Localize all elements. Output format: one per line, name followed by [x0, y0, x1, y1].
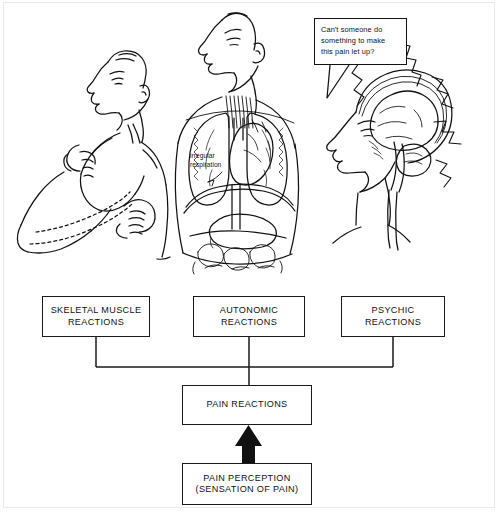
- node-autonomic-reactions: AUTONOMIC REACTIONS: [193, 296, 305, 337]
- node-psychic-reactions: PSYCHIC REACTIONS: [341, 296, 445, 337]
- arrow-pain-perception-to-reactions: [235, 425, 262, 463]
- node-pain-reactions: PAIN REACTIONS: [182, 385, 312, 425]
- illustration-page: Can't someone do something to make this …: [0, 0, 500, 512]
- node-skeletal-muscle-reactions: SKELETAL MUSCLE REACTIONS: [42, 296, 150, 337]
- node-pain-perception: PAIN PERCEPTION (SENSATION OF PAIN): [182, 463, 312, 505]
- flowchart-connectors: [0, 0, 500, 512]
